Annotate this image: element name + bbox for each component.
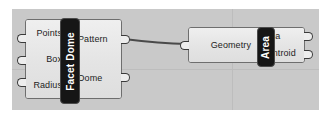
input-label-radius: Radius: [33, 80, 62, 91]
output-port-area[interactable]: [304, 32, 313, 41]
output-port-pattern[interactable]: [121, 35, 130, 44]
input-label-geometry: Geometry: [211, 40, 251, 51]
input-port-points[interactable]: [17, 34, 26, 43]
node-facet-dome-name: Facet Dome: [65, 32, 76, 91]
input-label-points: Points: [36, 28, 62, 39]
node-area-name: Area: [261, 35, 272, 58]
node-facet-dome-name-capsule[interactable]: Facet Dome: [60, 18, 80, 104]
node-facet-dome[interactable]: Points Box Radius Pattern Dome Facet Dom…: [25, 19, 122, 99]
grasshopper-canvas-screenshot: Points Box Radius Pattern Dome Facet Dom…: [0, 0, 330, 118]
node-area-inputs: Geometry: [189, 28, 255, 62]
node-facet-dome-outputs: Pattern Dome: [73, 20, 121, 98]
node-area[interactable]: Geometry Area Centroid Area: [188, 27, 305, 63]
output-label-pattern: Pattern: [78, 34, 108, 45]
output-port-centroid[interactable]: [304, 50, 313, 59]
input-port-radius[interactable]: [17, 78, 26, 87]
node-area-name-capsule[interactable]: Area: [257, 27, 275, 67]
input-port-box[interactable]: [17, 56, 26, 65]
input-port-geometry[interactable]: [180, 41, 189, 50]
output-port-dome[interactable]: [121, 73, 130, 82]
output-label-dome: Dome: [78, 73, 102, 84]
